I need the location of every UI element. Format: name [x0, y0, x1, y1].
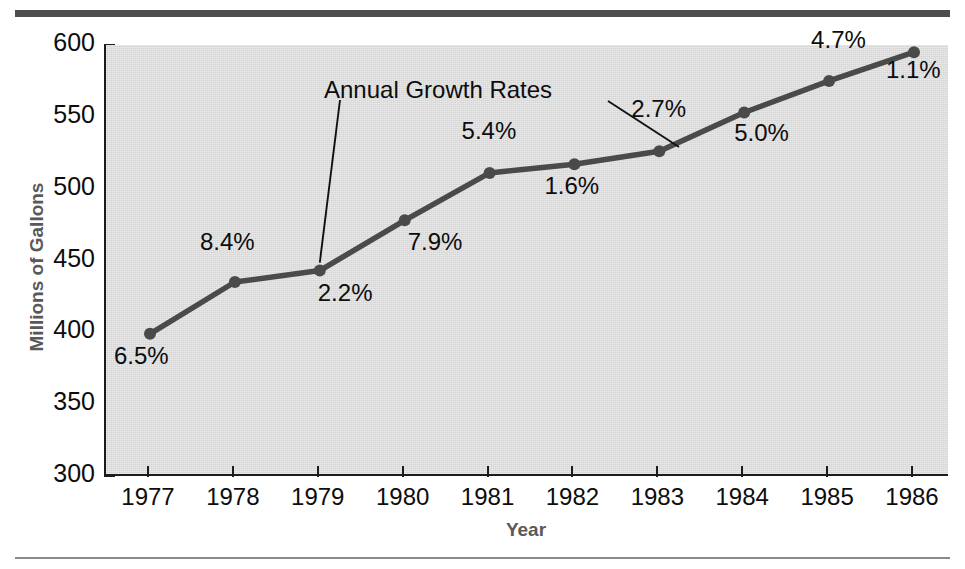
x-tick-1986 — [911, 466, 913, 477]
growth-rate-label-1985: 4.7% — [811, 26, 866, 54]
y-tick-label-400: 400 — [25, 315, 95, 344]
x-tick-1985 — [826, 466, 828, 477]
x-tick-label-1984: 1984 — [697, 483, 787, 511]
data-point-1983 — [653, 145, 665, 157]
y-tick-label-500: 500 — [25, 172, 95, 201]
top-divider-rule — [15, 10, 950, 17]
data-point-1982 — [568, 158, 580, 170]
x-tick-1977 — [147, 466, 149, 477]
y-tick-label-450: 450 — [25, 244, 95, 273]
x-tick-label-1979: 1979 — [273, 483, 363, 511]
x-tick-label-1983: 1983 — [612, 483, 702, 511]
x-tick-label-1980: 1980 — [358, 483, 448, 511]
data-point-1979 — [314, 265, 326, 277]
x-tick-label-1986: 1986 — [867, 483, 957, 511]
x-tick-1978 — [232, 466, 234, 477]
growth-rate-label-1978: 8.4% — [200, 228, 255, 256]
growth-rate-label-1977: 6.5% — [114, 342, 169, 370]
y-tick-label-550: 550 — [25, 100, 95, 129]
x-tick-1980 — [402, 466, 404, 477]
x-tick-label-1978: 1978 — [188, 483, 278, 511]
x-tick-1982 — [571, 466, 573, 477]
x-tick-1981 — [487, 466, 489, 477]
x-tick-1979 — [317, 466, 319, 477]
y-tick-label-300: 300 — [25, 459, 95, 488]
growth-rate-label-1981: 5.4% — [462, 117, 517, 145]
data-point-1980 — [399, 214, 411, 226]
y-tick-label-600: 600 — [25, 28, 95, 57]
data-point-1977 — [144, 328, 156, 340]
data-point-1984 — [738, 107, 750, 119]
plot-canvas — [106, 45, 950, 476]
x-tick-label-1977: 1977 — [103, 483, 193, 511]
x-tick-1983 — [656, 466, 658, 477]
plot-area — [104, 45, 948, 476]
growth-rate-label-1984: 5.0% — [734, 119, 789, 147]
x-tick-1984 — [741, 466, 743, 477]
x-axis-title: Year — [104, 519, 948, 541]
data-point-1981 — [484, 167, 496, 179]
x-tick-label-1982: 1982 — [527, 483, 617, 511]
annual-growth-rates-callout: Annual Growth Rates — [324, 76, 552, 104]
callout-leader-line-left — [320, 100, 340, 263]
growth-rate-label-1980: 7.9% — [408, 228, 463, 256]
growth-rate-label-1982: 1.6% — [544, 172, 599, 200]
data-point-1985 — [823, 75, 835, 87]
bottom-divider-rule — [15, 557, 950, 559]
growth-rate-label-1983: 2.7% — [631, 95, 686, 123]
x-tick-label-1981: 1981 — [443, 483, 533, 511]
growth-rate-label-1979: 2.2% — [318, 279, 373, 307]
y-tick-label-350: 350 — [25, 387, 95, 416]
chart-figure: Millions of Gallons Year 300350400450500… — [0, 0, 965, 569]
data-point-1978 — [229, 276, 241, 288]
x-tick-label-1985: 1985 — [782, 483, 872, 511]
growth-rate-label-1986: 1.1% — [886, 56, 941, 84]
